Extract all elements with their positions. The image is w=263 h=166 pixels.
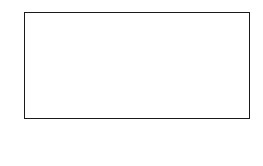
transmission-curve xyxy=(24,12,250,119)
plot-area xyxy=(24,12,250,119)
spectrum-figure xyxy=(0,0,263,166)
